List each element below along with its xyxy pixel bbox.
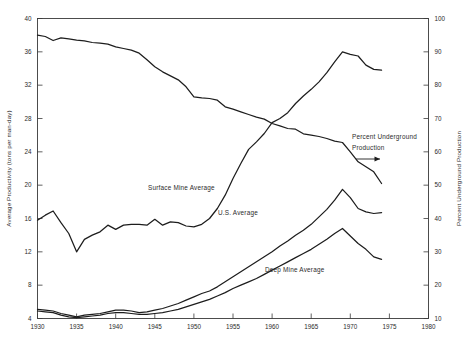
chart-canvas: 4812162024283236401020304050607080901001…	[0, 0, 472, 339]
x-axis-tick-label: 1955	[226, 323, 241, 330]
x-axis-tick-label: 1965	[304, 323, 319, 330]
x-axis-tick-label: 1945	[148, 323, 163, 330]
y-axis-tick-label: 16	[24, 215, 32, 222]
y2-axis-tick-label: 40	[435, 215, 443, 222]
series-line-2	[38, 189, 382, 316]
y2-axis-tick-label: 20	[435, 281, 443, 288]
x-axis-tick-label: 1975	[382, 323, 397, 330]
y-axis-tick-label: 4	[28, 315, 32, 322]
x-axis-tick-label: 1935	[70, 323, 85, 330]
series-label-3: Deep Mine Average	[265, 266, 325, 274]
y2-axis-tick-label: 100	[435, 15, 446, 22]
x-axis-tick-label: 1980	[421, 323, 436, 330]
y2-axis-tick-label: 50	[435, 181, 443, 188]
y-axis-title: Average Productivity (tons per man-day)	[5, 110, 12, 226]
x-axis-tick-label: 1960	[265, 323, 280, 330]
annotation-arrowhead-icon	[375, 157, 381, 162]
y-axis-tick-label: 20	[24, 181, 32, 188]
y-axis-tick-label: 28	[24, 115, 32, 122]
x-axis-tick-label: 1970	[343, 323, 358, 330]
x-axis-tick-label: 1950	[187, 323, 202, 330]
y2-axis-tick-label: 80	[435, 81, 443, 88]
y-axis-tick-label: 40	[24, 15, 32, 22]
y2-axis-tick-label: 70	[435, 115, 443, 122]
series-line-0	[38, 35, 382, 183]
y-axis-tick-label: 32	[24, 81, 32, 88]
y2-axis-tick-label: 90	[435, 48, 443, 55]
series-line-1	[38, 52, 382, 252]
percent-underground-annotation-line1: Percent Underground	[352, 133, 417, 141]
plot-frame	[38, 19, 429, 319]
series-line-3	[38, 229, 382, 318]
x-axis-tick-label: 1940	[109, 323, 124, 330]
x-axis-tick-label: 1930	[30, 323, 45, 330]
percent-underground-annotation-line2: Production	[352, 144, 385, 151]
y-axis-tick-label: 24	[24, 148, 32, 155]
y-axis-tick-label: 12	[24, 248, 32, 255]
productivity-chart: 4812162024283236401020304050607080901001…	[0, 0, 472, 339]
y2-axis-tick-label: 60	[435, 148, 443, 155]
y2-axis-tick-label: 10	[435, 315, 443, 322]
y2-axis-title: Percent Underground Production	[455, 131, 462, 226]
y-axis-tick-label: 36	[24, 48, 32, 55]
series-label-2: U.S. Average	[218, 209, 258, 217]
y-axis-tick-label: 8	[28, 281, 32, 288]
y2-axis-tick-label: 30	[435, 248, 443, 255]
series-label-1: Surface Mine Average	[148, 184, 215, 192]
